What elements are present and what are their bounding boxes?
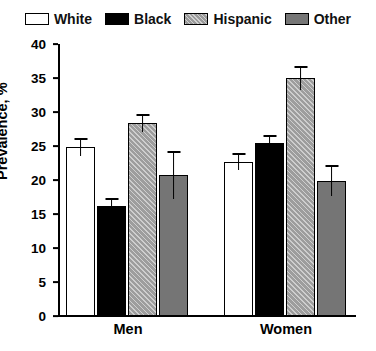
- y-tick-label-0: 0: [38, 309, 46, 324]
- legend-swatch-white-icon: [25, 13, 49, 25]
- legend-label-white: White: [54, 12, 92, 26]
- error-bar-women-hispanic: [300, 66, 302, 89]
- legend-item-other: Other: [285, 12, 351, 26]
- y-tick-label-10: 10: [31, 241, 46, 256]
- error-bar-women-other: [331, 165, 333, 196]
- bar-men-white: [66, 147, 95, 316]
- bar-men-hispanic: [128, 123, 157, 316]
- bar-women-white: [224, 162, 253, 316]
- error-cap-men-white: [74, 138, 87, 140]
- legend-item-hispanic: Hispanic: [184, 12, 271, 26]
- legend-label-other: Other: [314, 12, 351, 26]
- y-axis-title: Prevalence, %: [0, 82, 10, 180]
- error-bar-men-black: [111, 198, 113, 214]
- bar-series-container: [58, 44, 356, 316]
- error-bar-men-other: [173, 151, 175, 199]
- prevalence-bar-chart: White Black Hispanic Other 0510152025303…: [0, 0, 376, 351]
- y-tick-label-20: 20: [31, 173, 46, 188]
- y-tick-label-15: 15: [31, 207, 46, 222]
- legend-swatch-other-icon: [285, 13, 309, 25]
- error-cap-men-hispanic: [136, 114, 149, 116]
- chart-legend: White Black Hispanic Other: [0, 12, 376, 26]
- y-tick-label-35: 35: [31, 71, 46, 86]
- error-bar-women-white: [238, 153, 240, 169]
- y-tick-label-25: 25: [31, 139, 46, 154]
- plot-area: [58, 44, 356, 316]
- error-bar-men-hispanic: [142, 114, 144, 132]
- bar-women-other: [317, 181, 346, 316]
- error-cap-women-hispanic: [294, 66, 307, 68]
- legend-swatch-hispanic-icon: [184, 13, 208, 25]
- legend-swatch-black-icon: [105, 13, 129, 25]
- bar-women-hispanic: [286, 78, 315, 316]
- error-bar-women-black: [269, 135, 271, 150]
- error-cap-women-black: [263, 135, 276, 137]
- error-bar-men-white: [80, 138, 82, 156]
- legend-item-black: Black: [105, 12, 171, 26]
- error-cap-men-other: [167, 151, 180, 153]
- error-cap-men-black: [105, 198, 118, 200]
- y-tick-label-30: 30: [31, 105, 46, 120]
- bar-men-black: [97, 206, 126, 316]
- legend-label-black: Black: [134, 12, 171, 26]
- y-tick-label-5: 5: [38, 275, 46, 290]
- y-tick-label-40: 40: [31, 37, 46, 52]
- error-cap-women-white: [232, 153, 245, 155]
- legend-label-hispanic: Hispanic: [213, 12, 271, 26]
- legend-item-white: White: [25, 12, 92, 26]
- group-label-women: Women: [260, 321, 312, 337]
- error-cap-women-other: [325, 165, 338, 167]
- group-label-men: Men: [114, 321, 143, 337]
- bar-women-black: [255, 143, 284, 316]
